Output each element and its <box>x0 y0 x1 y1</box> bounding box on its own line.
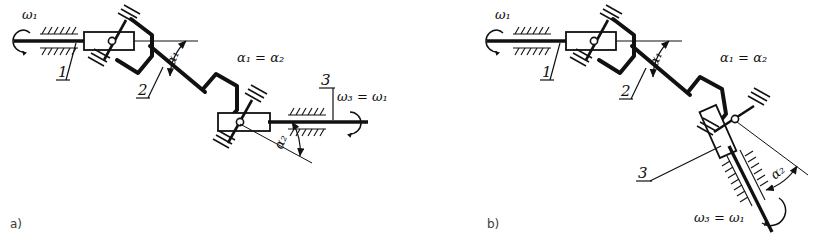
panel-a-omega3-rotation-icon <box>347 112 361 138</box>
panel-a-link3-label: 3 <box>321 71 331 89</box>
panel-b-alpha1-label: α₁ <box>646 50 665 69</box>
panel-b-caption: b) <box>487 217 499 231</box>
panel-b-alpha2-label: α₂ <box>767 162 787 182</box>
panel-b-omega1-rotation-icon <box>486 30 503 56</box>
panel-a-joint-2 <box>203 74 270 148</box>
panel-a-caption: a) <box>10 217 22 231</box>
panel-a-alpha2-label: α₂ <box>271 133 290 152</box>
mechanism-drawing: ω₁ 1 <box>0 0 823 244</box>
panel-a-link1-label: 1 <box>58 63 68 81</box>
panel-a-joint-1 <box>84 5 152 73</box>
panel-b-omega3-rotation-icon <box>762 198 786 226</box>
figure-canvas: ω₁ 1 <box>0 0 823 244</box>
panel-a-omega1-label: ω₁ <box>22 7 38 22</box>
panel-a-angle-condition: α₁ = α₂ <box>237 50 284 65</box>
panel-b-joint-1 <box>566 5 634 73</box>
panel-b-omega1-label: ω₁ <box>495 7 511 22</box>
panel-b-link3-label: 3 <box>638 164 648 182</box>
panel-b-link2-label: 2 <box>620 82 631 100</box>
panel-a: ω₁ 1 <box>10 5 388 231</box>
panel-b-intermediate-shaft <box>632 46 690 95</box>
panel-b-leader-3 <box>636 146 721 181</box>
panel-a-omega1-rotation-icon <box>13 30 30 56</box>
panel-a-alpha1-label: α₁ <box>163 49 182 68</box>
panel-b: ω₁ 1 <box>486 5 808 232</box>
panel-b-omega3-label: ω₃ = ω₁ <box>694 210 745 225</box>
panel-b-angle-condition: α₁ = α₂ <box>720 50 767 65</box>
panel-a-link2-label: 2 <box>137 81 148 99</box>
panel-b-joint-2 <box>688 77 770 158</box>
panel-b-link1-label: 1 <box>542 63 552 81</box>
panel-a-omega3-label: ω₃ = ω₁ <box>337 89 388 104</box>
